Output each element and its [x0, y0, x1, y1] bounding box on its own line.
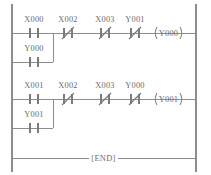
- contact-r1-c1[interactable]: X000: [24, 15, 43, 38]
- contact-r1-c4[interactable]: Y001: [125, 15, 144, 39]
- rung-end: [END]: [12, 154, 196, 163]
- contact-label-r2-c2: X002: [58, 81, 77, 90]
- contact-label-r1-c4: Y001: [125, 15, 144, 24]
- contact-label-r1-c3: X003: [95, 15, 114, 24]
- coil-r1[interactable]: Y000: [155, 27, 182, 39]
- contact-r2-c1[interactable]: X001: [24, 81, 43, 104]
- contact-label-r1-c1: X000: [24, 15, 43, 24]
- coil-label-r2: Y001: [159, 95, 178, 104]
- contact-r1-b1[interactable]: Y000: [24, 44, 43, 67]
- coil-label-r1: Y000: [159, 29, 178, 38]
- contact-label-r2-c4: Y000: [125, 81, 144, 90]
- rung-2: X001 X002 X003 Y000: [12, 81, 196, 133]
- rung-1: X000 X002 X003 Y001: [12, 15, 196, 67]
- contact-label-r2-b1: Y001: [24, 110, 43, 119]
- contact-label-r1-b1: Y000: [24, 44, 43, 53]
- contact-label-r1-c2: X002: [58, 15, 77, 24]
- end-instruction-label: [END]: [91, 154, 115, 163]
- contact-label-r2-c1: X001: [24, 81, 43, 90]
- rung-2-branch: Y001: [12, 99, 53, 133]
- contact-r2-c3[interactable]: X003: [95, 81, 114, 105]
- contact-label-r2-c3: X003: [95, 81, 114, 90]
- contact-r2-c2[interactable]: X002: [58, 81, 77, 105]
- contact-r2-b1[interactable]: Y001: [24, 110, 43, 133]
- ladder-canvas: X000 X002 X003 Y001: [0, 0, 211, 175]
- contact-r2-c4[interactable]: Y000: [125, 81, 144, 105]
- contact-r1-c3[interactable]: X003: [95, 15, 114, 39]
- ladder-diagram: X000 X002 X003 Y001: [0, 0, 211, 175]
- rung-1-branch: Y000: [12, 33, 53, 67]
- contact-r1-c2[interactable]: X002: [58, 15, 77, 39]
- coil-r2[interactable]: Y001: [155, 93, 182, 105]
